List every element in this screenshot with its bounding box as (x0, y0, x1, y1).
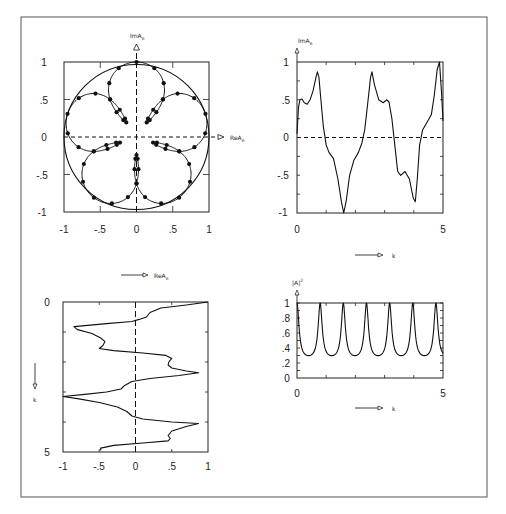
marker-dot (175, 91, 179, 95)
y-tick-labels: 0 5 (44, 297, 50, 458)
x-tick-labels: -1 -.5 0 .5 1 (60, 224, 213, 235)
marker-dot (192, 96, 196, 100)
marker-dot (81, 180, 85, 184)
marker-dot (77, 96, 81, 100)
svg-text:-1: -1 (38, 207, 47, 218)
y-tick-labels: 1 .5 0 -.5 -1 (36, 57, 48, 218)
marker-dot (65, 112, 69, 116)
y-axis-label: ImAe (298, 37, 313, 46)
marker-dot (107, 81, 111, 85)
arrow-right-icon (218, 135, 224, 140)
marker-dot (105, 147, 109, 151)
arrow-right-icon (378, 253, 383, 257)
y-axis-label: ImAe (130, 32, 145, 41)
svg-text:0: 0 (133, 461, 139, 472)
svg-text:.5: .5 (282, 95, 291, 106)
svg-text:-1: -1 (279, 207, 288, 218)
svg-text:0: 0 (134, 224, 140, 235)
svg-text:.5: .5 (169, 224, 178, 235)
arrow-up-icon (134, 44, 140, 50)
marker-dot (117, 66, 121, 70)
marker-dot (77, 145, 81, 149)
marker-dot (92, 196, 96, 200)
bottom-axis-label: ReAe (154, 272, 169, 281)
svg-text:.8: .8 (282, 313, 291, 324)
arrow-down-icon (33, 384, 37, 389)
marker-dot (154, 110, 158, 114)
marker-dot (136, 167, 140, 171)
y-tick-labels: 1 .8 .6 .4 .2 0 (282, 298, 291, 384)
marker-dot (132, 167, 136, 171)
marker-dot (154, 143, 158, 147)
svg-text:5: 5 (440, 388, 446, 399)
marker-dot (165, 143, 169, 147)
x-tick-labels: -1 -.5 0 .5 1 (59, 461, 212, 472)
marker-dot (192, 145, 196, 149)
marker-dot (161, 97, 165, 101)
marker-dot (187, 162, 191, 166)
arrow-up-icon (295, 290, 299, 295)
svg-text:.5: .5 (40, 95, 49, 106)
svg-text:-1: -1 (60, 224, 69, 235)
svg-text:0: 0 (294, 388, 300, 399)
data-curve (297, 303, 443, 356)
svg-text:1: 1 (41, 57, 47, 68)
marker-dot (123, 117, 127, 121)
panel-intensity-vs-k: |A|2 1 .8 .6 .4 .2 0 0 5 k (282, 278, 446, 412)
marker-dot (143, 195, 147, 199)
marker-dot (82, 162, 86, 166)
svg-text:1: 1 (206, 224, 212, 235)
marker-dot (104, 143, 108, 147)
marker-dot (93, 91, 97, 95)
marker-dot (114, 141, 118, 145)
x-axis-label: k (392, 252, 396, 259)
svg-text:0: 0 (283, 132, 289, 143)
panel-complex-plane: ImAe ReAe 1 .5 0 -.5 -1 -1 -.5 0 .5 1 Re… (36, 32, 245, 281)
x-axis-label: ReAe (230, 134, 245, 143)
svg-text:.5: .5 (168, 461, 177, 472)
y-axis-label: k (33, 396, 37, 403)
svg-text:0: 0 (41, 132, 47, 143)
marker-dot (108, 97, 112, 101)
x-tick-labels: 0 5 (294, 388, 446, 399)
svg-text:.2: .2 (282, 358, 291, 369)
arrow-up-icon (295, 48, 299, 53)
marker-dot (203, 112, 207, 116)
marker-dot (177, 196, 181, 200)
svg-text:0: 0 (294, 224, 300, 235)
svg-text:.4: .4 (282, 343, 291, 354)
svg-text:5: 5 (44, 447, 50, 458)
panel-real-vs-k: k 0 5 -1 -.5 0 .5 1 (33, 297, 211, 472)
marker-dot (66, 131, 70, 135)
svg-text:0: 0 (284, 373, 290, 384)
svg-text:0: 0 (44, 297, 50, 308)
x-tick-labels: 0 5 (294, 224, 446, 235)
marker-dot (126, 195, 130, 199)
svg-text:1: 1 (284, 298, 290, 309)
marker-dot (124, 120, 128, 124)
arrow-right-icon (143, 273, 148, 277)
marker-dot (92, 149, 96, 153)
marker-dot (177, 149, 181, 153)
svg-text:-.5: -.5 (36, 170, 48, 181)
svg-text:5: 5 (440, 224, 446, 235)
marker-dot (188, 180, 192, 184)
marker-dot (163, 147, 167, 151)
y-tick-labels: 1 .5 0 -.5 -1 (277, 57, 290, 218)
marker-dot (148, 118, 152, 122)
svg-text:1: 1 (205, 461, 211, 472)
svg-text:-.5: -.5 (93, 461, 105, 472)
svg-text:-1: -1 (59, 461, 68, 472)
marker-dot (118, 108, 122, 112)
marker-dot (118, 140, 122, 144)
svg-text:.6: .6 (282, 328, 291, 339)
svg-text:-.5: -.5 (277, 170, 289, 181)
svg-text:1: 1 (283, 57, 289, 68)
figure: ImAe ReAe 1 .5 0 -.5 -1 -1 -.5 0 .5 1 Re… (0, 0, 506, 514)
marker-dot (159, 201, 163, 205)
x-axis-label: k (392, 405, 396, 412)
arrow-right-icon (378, 406, 383, 410)
marker-dot (162, 81, 166, 85)
marker-dot (110, 201, 114, 205)
marker-dot (152, 66, 156, 70)
